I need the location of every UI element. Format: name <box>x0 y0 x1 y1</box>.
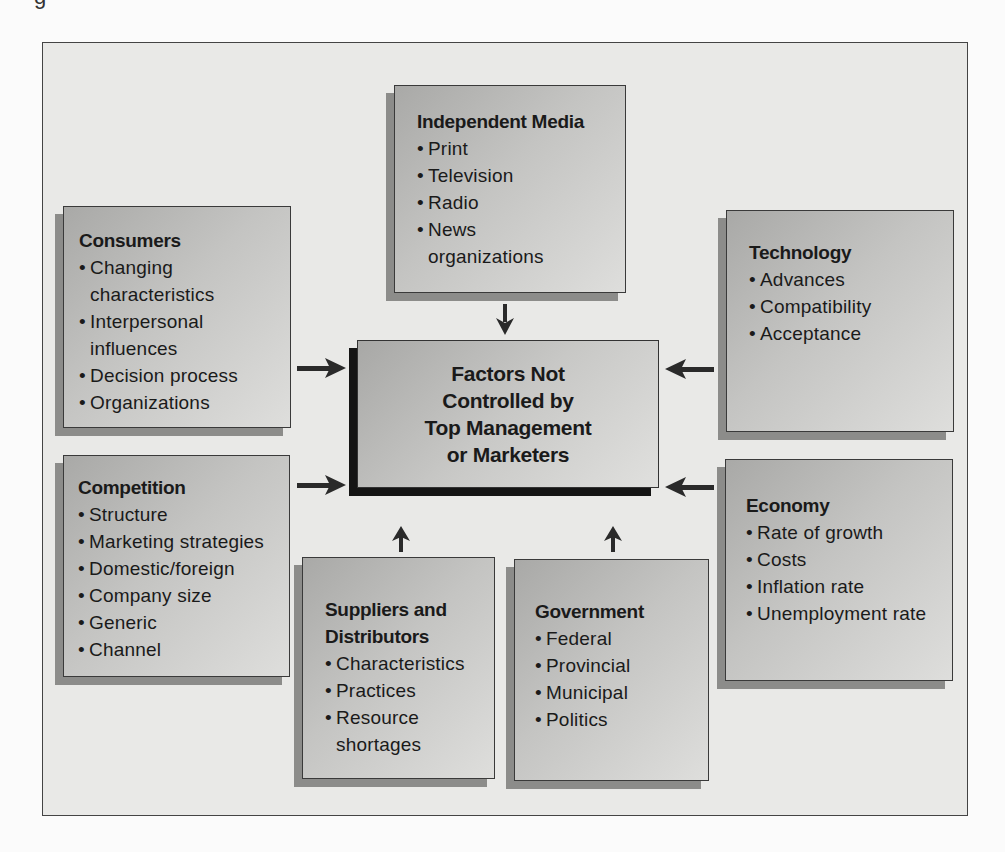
box-title: Economy <box>746 492 952 519</box>
list-item: Characteristics <box>325 650 494 677</box>
list-item: News organizations <box>417 216 568 270</box>
list-item: Radio <box>417 189 625 216</box>
box-suppliers-distributors: Suppliers and Distributors Characteristi… <box>302 557 495 779</box>
list-item: Print <box>417 135 625 162</box>
box-title: Independent Media <box>417 108 625 135</box>
list-item: Practices <box>325 677 494 704</box>
item-list: Changing characteristics Interpersonal i… <box>79 254 290 416</box>
item-list: Characteristics Practices Resource short… <box>325 650 494 758</box>
page-fragment-text: g <box>34 0 46 10</box>
box-economy: Economy Rate of growth Costs Inflation r… <box>725 459 953 681</box>
list-item: Structure <box>78 501 289 528</box>
box-title-line: Suppliers and <box>325 596 494 623</box>
list-item: Interpersonal influences <box>79 308 250 362</box>
list-item: Domestic/foreign <box>78 555 289 582</box>
item-list: Advances Compatibility Acceptance <box>749 266 953 347</box>
list-item: Resource shortages <box>325 704 436 758</box>
box-consumers: Consumers Changing characteristics Inter… <box>63 206 291 428</box>
list-item: Rate of growth <box>746 519 952 546</box>
box-government: Government Federal Provincial Municipal … <box>514 559 709 781</box>
list-item: Compatibility <box>749 293 953 320</box>
list-item: Marketing strategies <box>78 528 289 555</box>
list-item: Costs <box>746 546 952 573</box>
center-title-line: Controlled by <box>425 387 592 414</box>
list-item: Advances <box>749 266 953 293</box>
item-list: Rate of growth Costs Inflation rate Unem… <box>746 519 952 627</box>
center-title-line: or Marketers <box>425 441 592 468</box>
box-competition: Competition Structure Marketing strategi… <box>63 455 290 677</box>
item-list: Print Television Radio News organization… <box>417 135 625 270</box>
list-item: Television <box>417 162 625 189</box>
list-item: Organizations <box>79 389 290 416</box>
item-list: Federal Provincial Municipal Politics <box>535 625 708 733</box>
center-title-line: Factors Not <box>425 360 592 387</box>
list-item: Provincial <box>535 652 708 679</box>
list-item: Changing characteristics <box>79 254 250 308</box>
box-independent-media: Independent Media Print Television Radio… <box>394 85 626 293</box>
list-item: Channel <box>78 636 289 663</box>
arrow-left-icon <box>664 358 714 380</box>
center-title-line: Top Management <box>425 414 592 441</box>
list-item: Inflation rate <box>746 573 952 600</box>
item-list: Structure Marketing strategies Domestic/… <box>78 501 289 663</box>
list-item: Decision process <box>79 362 290 389</box>
list-item: Politics <box>535 706 708 733</box>
list-item: Unemployment rate <box>746 600 952 627</box>
arrow-down-icon <box>495 304 515 336</box>
box-title: Consumers <box>79 227 290 254</box>
box-title: Competition <box>78 474 289 501</box>
arrow-right-icon <box>297 474 347 496</box>
arrow-up-icon <box>391 526 411 552</box>
box-title: Government <box>535 598 708 625</box>
center-box-factors-not-controlled: Factors Not Controlled by Top Management… <box>357 340 659 488</box>
list-item: Generic <box>78 609 289 636</box>
list-item: Federal <box>535 625 708 652</box>
arrow-up-icon <box>603 526 623 552</box>
box-title: Technology <box>749 239 953 266</box>
box-title-line: Distributors <box>325 623 494 650</box>
center-title: Factors Not Controlled by Top Management… <box>425 360 592 468</box>
list-item: Acceptance <box>749 320 953 347</box>
list-item: Company size <box>78 582 289 609</box>
box-technology: Technology Advances Compatibility Accept… <box>726 210 954 432</box>
arrow-right-icon <box>297 357 347 379</box>
arrow-left-icon <box>664 476 714 498</box>
list-item: Municipal <box>535 679 708 706</box>
